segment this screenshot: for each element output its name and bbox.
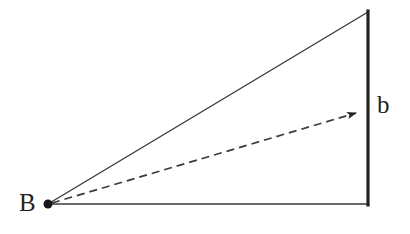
vertex-dot-b [44,200,53,209]
dashed-vector-arrow [52,113,356,203]
triangle-vector-diagram [0,0,410,234]
geometry-figure: B b [0,0,410,234]
vector-label-b: b [377,92,390,117]
hypotenuse-line [48,12,368,204]
vertex-label-B: B [19,190,36,215]
